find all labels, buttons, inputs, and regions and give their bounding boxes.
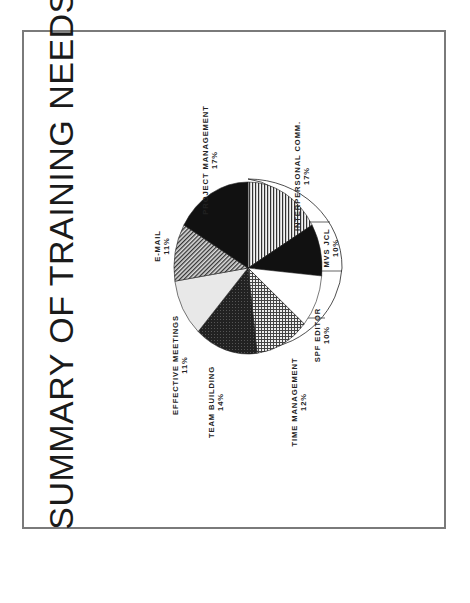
slice-label: E-MAIL11%	[153, 230, 171, 262]
slice-label: EFFECTIVE MEETINGS11%	[171, 315, 189, 415]
pie-chart: INTERPERSONAL COMM.17%MVS JCL10%SPF EDIT…	[0, 0, 470, 603]
slice-label: TIME MANAGEMENT12%	[290, 357, 308, 446]
slice-label: TEAM BUILDING14%	[207, 366, 225, 438]
